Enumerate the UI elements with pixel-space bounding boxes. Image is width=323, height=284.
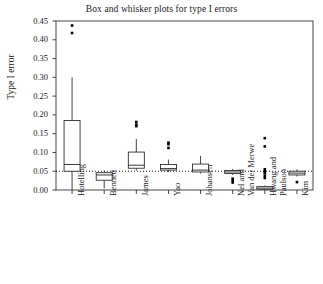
box xyxy=(64,121,80,172)
box-whisker-bennett xyxy=(96,170,112,188)
outlier-point xyxy=(71,24,74,27)
outlier-point xyxy=(71,32,74,35)
outlier-point xyxy=(135,123,138,126)
box xyxy=(193,164,209,172)
outlier-point xyxy=(231,177,234,180)
box-whisker-johansen xyxy=(193,156,209,174)
outlier-point xyxy=(264,174,267,177)
outlier-point xyxy=(264,168,267,171)
plot-area xyxy=(0,0,323,284)
outlier-point xyxy=(264,145,267,148)
outlier-point xyxy=(264,137,267,140)
outlier-point xyxy=(167,141,170,144)
outlier-point xyxy=(167,147,170,150)
box-whisker-hotelling xyxy=(64,24,80,190)
outlier-point xyxy=(296,181,299,184)
box-whisker-kim xyxy=(289,169,305,183)
outlier-point xyxy=(264,177,267,180)
box-whisker-nel-and-van-der-merwe xyxy=(225,169,241,184)
box-whisker-james xyxy=(128,121,144,171)
box-whisker-yao xyxy=(160,141,176,172)
box xyxy=(160,164,176,170)
box-whisker-hwang-and-paulson xyxy=(257,137,273,190)
box-whisker-figure: Box and whisker plots for type I errors … xyxy=(0,0,323,284)
box xyxy=(96,173,112,181)
plot-frame xyxy=(56,21,313,190)
box xyxy=(128,152,144,168)
outlier-point xyxy=(135,121,138,124)
